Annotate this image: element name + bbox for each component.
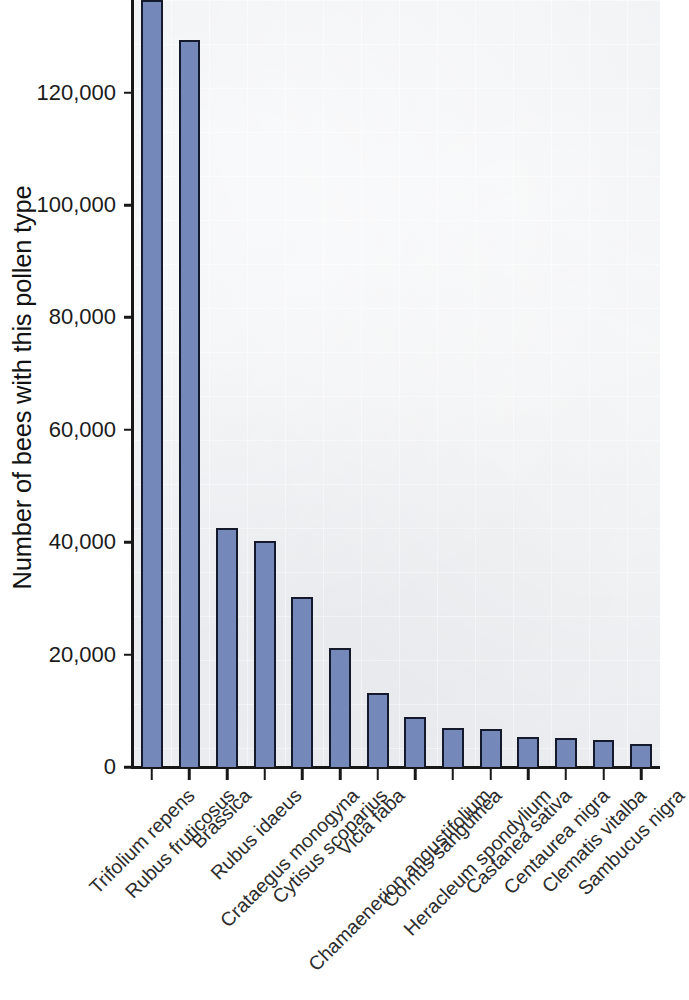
bar xyxy=(404,717,426,767)
y-axis-tick-labels: 020,00040,00060,00080,000100,000120,000 xyxy=(44,0,124,790)
y-axis-tick-label: 120,000 xyxy=(36,80,116,106)
y-axis-tick-mark xyxy=(124,316,133,319)
x-axis-tick-mark xyxy=(264,769,267,780)
bar xyxy=(630,744,652,767)
bar xyxy=(517,737,539,767)
bar xyxy=(291,597,313,767)
x-axis-tick-mark xyxy=(414,769,417,780)
y-axis-tick-mark xyxy=(124,429,133,432)
y-axis-tick-label: 20,000 xyxy=(49,642,116,668)
x-axis-tick-mark xyxy=(376,769,379,780)
bar xyxy=(216,528,238,767)
x-axis-tick-mark xyxy=(188,769,191,780)
bar xyxy=(329,648,351,767)
x-axis-tick-mark xyxy=(602,769,605,780)
y-axis-tick-mark xyxy=(124,204,133,207)
x-axis-tick-mark xyxy=(640,769,643,780)
y-axis-tick-mark xyxy=(124,653,133,656)
y-axis-tick-label: 40,000 xyxy=(49,529,116,555)
bar xyxy=(480,729,502,767)
x-axis-tick-mark xyxy=(301,769,304,780)
x-axis-tick-mark xyxy=(489,769,492,780)
y-axis-tick-label: 60,000 xyxy=(49,417,116,443)
x-axis-tick-labels: Trifolium repensRubus fruticosusBrassica… xyxy=(0,767,660,1000)
y-axis-tick-label: 100,000 xyxy=(36,192,116,218)
bar xyxy=(367,693,389,767)
bar xyxy=(555,738,577,767)
y-axis-tick-label: 80,000 xyxy=(49,304,116,330)
x-axis-tick-mark xyxy=(151,769,154,780)
bar xyxy=(141,0,163,767)
bar xyxy=(254,541,276,767)
bar xyxy=(442,728,464,767)
y-axis-title: Number of bees with this pollen type xyxy=(9,186,38,590)
y-axis-tick-mark xyxy=(124,541,133,544)
bar xyxy=(593,740,615,767)
x-axis-tick-mark xyxy=(527,769,530,780)
x-axis-tick-mark xyxy=(452,769,455,780)
plot-area xyxy=(133,0,660,767)
x-axis-tick-mark xyxy=(339,769,342,780)
x-axis-tick-mark xyxy=(226,769,229,780)
bar xyxy=(179,40,201,767)
y-axis-tick-mark xyxy=(124,91,133,94)
x-axis-tick-mark xyxy=(565,769,568,780)
y-axis-tick-mark xyxy=(124,766,133,769)
y-axis-title-container: Number of bees with this pollen type xyxy=(0,0,46,775)
